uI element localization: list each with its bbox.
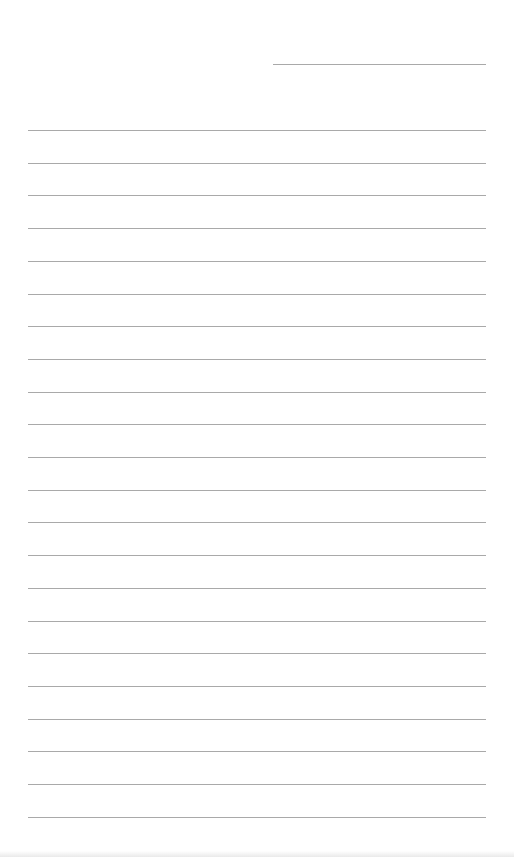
- ruled-line[interactable]: [28, 621, 486, 622]
- ruled-line[interactable]: [28, 359, 486, 360]
- ruled-line[interactable]: [28, 490, 486, 491]
- ruled-line[interactable]: [28, 163, 486, 164]
- ruled-line[interactable]: [28, 555, 486, 556]
- ruled-line[interactable]: [28, 424, 486, 425]
- ruled-line[interactable]: [28, 686, 486, 687]
- ruled-line[interactable]: [28, 751, 486, 752]
- ruled-line[interactable]: [28, 130, 486, 131]
- ruled-line[interactable]: [28, 392, 486, 393]
- ruled-line[interactable]: [28, 195, 486, 196]
- ruled-line[interactable]: [28, 719, 486, 720]
- page-bottom-edge: [0, 851, 514, 857]
- ruled-line[interactable]: [28, 522, 486, 523]
- ruled-line[interactable]: [28, 817, 486, 818]
- ruled-line[interactable]: [28, 261, 486, 262]
- ruled-line[interactable]: [28, 326, 486, 327]
- ruled-line[interactable]: [28, 653, 486, 654]
- lined-paper-page: [0, 0, 514, 857]
- ruled-line[interactable]: [28, 588, 486, 589]
- ruled-line[interactable]: [28, 294, 486, 295]
- ruled-line[interactable]: [28, 784, 486, 785]
- ruled-line[interactable]: [28, 228, 486, 229]
- header-name-line[interactable]: [273, 64, 486, 65]
- ruled-line[interactable]: [28, 457, 486, 458]
